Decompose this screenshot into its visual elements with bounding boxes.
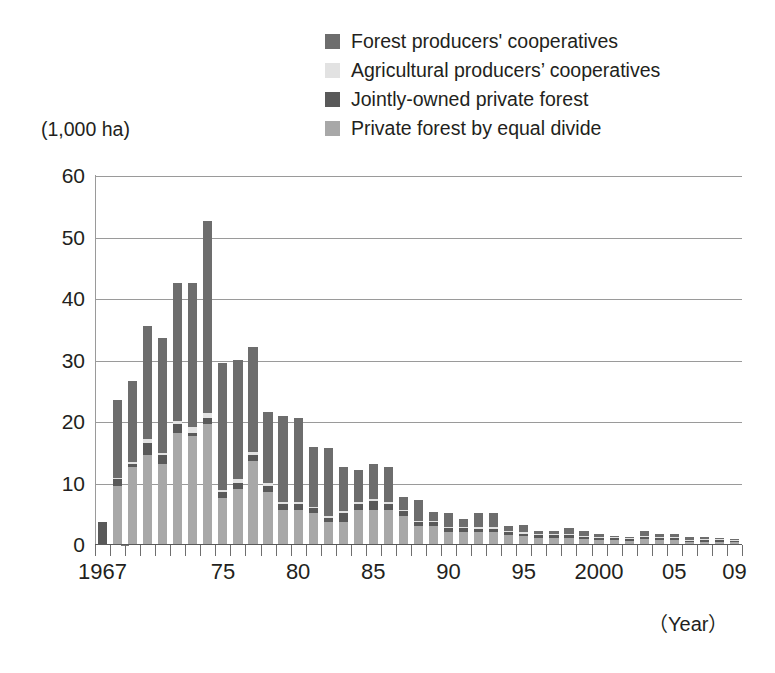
stacked-bar[interactable] <box>519 525 528 544</box>
bar-segment <box>233 360 242 480</box>
stacked-bar[interactable] <box>98 522 107 544</box>
x-axis-tick-mark <box>366 545 367 556</box>
bar-slot <box>110 175 125 544</box>
stacked-bar[interactable] <box>549 531 558 544</box>
bar-segment <box>354 470 363 502</box>
bar-slot <box>592 175 607 544</box>
stacked-bar[interactable] <box>324 448 333 544</box>
stacked-bar[interactable] <box>504 526 513 544</box>
stacked-bar[interactable] <box>610 536 619 544</box>
bar-segment <box>203 424 212 544</box>
stacked-bar[interactable] <box>564 528 573 544</box>
bar-segment <box>173 433 182 544</box>
bar-segment <box>489 513 498 527</box>
x-axis-tick-mark <box>682 545 683 556</box>
x-axis-tick-mark <box>667 545 668 556</box>
stacked-bar[interactable] <box>414 500 423 544</box>
stacked-bar[interactable] <box>670 534 679 544</box>
bar-slot <box>561 175 576 544</box>
x-axis-tick-mark <box>637 545 638 556</box>
stacked-bar[interactable] <box>113 400 122 545</box>
bar-segment <box>188 283 197 428</box>
stacked-bar[interactable] <box>655 534 664 544</box>
stacked-bar[interactable] <box>339 467 348 544</box>
bar-slot <box>245 175 260 544</box>
bar-slot <box>170 175 185 544</box>
stacked-bar[interactable] <box>384 467 393 544</box>
x-axis-tick-mark <box>95 545 96 556</box>
bar-segment <box>248 461 257 544</box>
bar-segment <box>459 532 468 544</box>
x-axis-tick-mark <box>185 545 186 556</box>
bar-slot <box>456 175 471 544</box>
stacked-bar[interactable] <box>128 381 137 544</box>
bar-slot <box>125 175 140 544</box>
bar-slot <box>546 175 561 544</box>
stacked-bar[interactable] <box>188 283 197 544</box>
stacked-bar[interactable] <box>203 221 212 544</box>
stacked-bar[interactable] <box>173 283 182 544</box>
bar-series-container <box>95 175 742 544</box>
bar-segment <box>444 513 453 527</box>
legend-item-jointly-owned-private-forest: Jointly-owned private forest <box>325 85 755 114</box>
x-axis-tick-mark <box>351 545 352 556</box>
x-axis-tick-label: 80 <box>286 559 310 585</box>
stacked-bar[interactable] <box>579 531 588 544</box>
stacked-bar[interactable] <box>640 531 649 544</box>
stacked-bar[interactable] <box>459 519 468 544</box>
stacked-bar[interactable] <box>369 464 378 544</box>
stacked-bar[interactable] <box>534 531 543 544</box>
x-axis-tick-mark <box>155 545 156 556</box>
y-axis-tick-label: 0 <box>39 534 85 555</box>
x-axis-tick-mark <box>276 545 277 556</box>
stacked-bar[interactable] <box>294 418 303 544</box>
bar-segment <box>504 535 513 544</box>
x-axis-tick-label: 85 <box>361 559 385 585</box>
stacked-bar[interactable] <box>429 512 438 544</box>
stacked-bar[interactable] <box>399 497 408 544</box>
stacked-bar[interactable] <box>278 416 287 544</box>
x-axis-tick-mark <box>381 545 382 556</box>
bar-segment <box>459 519 468 526</box>
stacked-bar[interactable] <box>685 537 694 544</box>
bar-segment <box>384 467 393 502</box>
bar-segment <box>173 424 182 433</box>
bar-segment <box>339 522 348 544</box>
x-axis-ticks <box>95 545 742 557</box>
stacked-bar[interactable] <box>354 470 363 544</box>
stacked-bar[interactable] <box>474 513 483 544</box>
stacked-bar[interactable] <box>158 338 167 544</box>
bar-slot <box>276 175 291 544</box>
bar-segment <box>309 447 318 507</box>
bar-segment <box>218 363 227 490</box>
bar-segment <box>188 436 197 544</box>
bar-slot <box>652 175 667 544</box>
bar-slot <box>185 175 200 544</box>
x-axis-tick-mark <box>170 545 171 556</box>
bar-segment <box>564 528 573 535</box>
stacked-bar[interactable] <box>309 447 318 544</box>
x-axis-tick-mark <box>652 545 653 556</box>
stacked-bar[interactable] <box>489 513 498 544</box>
bar-segment <box>429 512 438 521</box>
stacked-bar[interactable] <box>143 326 152 544</box>
bar-slot <box>155 175 170 544</box>
stacked-bar[interactable] <box>594 534 603 544</box>
bar-segment <box>294 418 303 502</box>
stacked-bar[interactable] <box>263 412 272 544</box>
legend-item-label: Jointly-owned private forest <box>351 90 588 110</box>
x-axis-tick-mark <box>576 545 577 556</box>
x-axis-tick-label: 1967 <box>78 559 127 585</box>
stacked-bar[interactable] <box>233 360 242 544</box>
x-axis-tick-mark <box>697 545 698 556</box>
stacked-bar[interactable] <box>700 537 709 544</box>
stacked-bar[interactable] <box>444 513 453 544</box>
stacked-bar[interactable] <box>625 537 634 544</box>
x-axis-tick-mark <box>712 545 713 556</box>
bar-slot <box>682 175 697 544</box>
stacked-bar[interactable] <box>248 347 257 544</box>
bar-slot <box>486 175 501 544</box>
stacked-bar[interactable] <box>218 363 227 544</box>
bar-segment <box>384 510 393 544</box>
bar-segment <box>113 400 122 478</box>
